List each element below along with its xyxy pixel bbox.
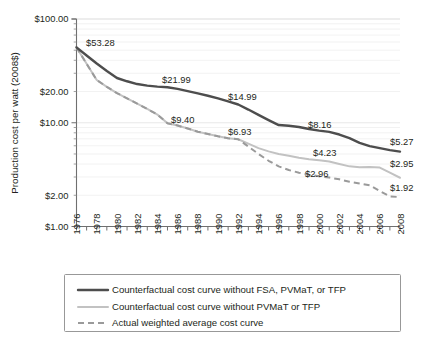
data-point-label: $21.99 — [162, 74, 191, 85]
data-point-label: $2.95 — [390, 158, 413, 169]
legend-label: Actual weighted average cost curve — [112, 317, 263, 328]
x-tick-label: 1980 — [112, 214, 123, 235]
data-point-label: $1.92 — [390, 182, 413, 193]
data-point-label: $4.23 — [313, 147, 336, 158]
series-line — [77, 47, 401, 177]
line-chart: $100.00$20.00$10.00$2.00$1.00 1976197819… — [0, 0, 426, 338]
x-tick-label: 1988 — [192, 214, 203, 235]
series-group — [77, 47, 401, 197]
y-tick-label: $10.00 — [40, 117, 69, 128]
x-tick-label: 1976 — [71, 214, 82, 235]
data-point-label: $14.99 — [228, 91, 257, 102]
x-tick-label: 1992 — [233, 214, 244, 235]
series-line — [77, 47, 401, 197]
data-point-label: $6.93 — [228, 126, 251, 137]
y-tick-label: $1.00 — [45, 221, 68, 232]
data-point-label: $53.28 — [86, 37, 115, 48]
x-tick-label: 2008 — [395, 214, 406, 235]
y-axis-title: Production cost per watt (2008$) — [9, 52, 20, 194]
x-tick-label: 2004 — [354, 214, 365, 235]
x-tick-label: 1998 — [294, 214, 305, 235]
x-tick-label: 2002 — [334, 214, 345, 235]
x-tick-label: 1982 — [132, 214, 143, 235]
x-tick-label-group: 1976197819801982198419861988199019921994… — [71, 214, 406, 235]
data-point-label: $5.27 — [390, 136, 413, 147]
x-tick-label: 1984 — [152, 214, 163, 235]
data-point-label: $9.40 — [171, 114, 194, 125]
x-tick-label: 2000 — [314, 214, 325, 235]
legend-label: Counterfactual cost curve without PVMaT … — [112, 301, 320, 312]
x-tick-label: 1990 — [213, 214, 224, 235]
y-tick-label-group: $100.00$20.00$10.00$2.00$1.00 — [35, 13, 69, 232]
x-tick-label: 1978 — [91, 214, 102, 235]
y-tick-label: $100.00 — [35, 13, 69, 24]
x-tick-label: 1994 — [253, 214, 264, 235]
x-tick-label: 1986 — [172, 214, 183, 235]
y-tick-group — [72, 19, 77, 227]
data-point-label: $8.16 — [308, 119, 331, 130]
legend-label: Counterfactual cost curve without FSA, P… — [112, 284, 346, 295]
x-tick-label: 1996 — [273, 214, 284, 235]
y-tick-label: $2.00 — [45, 190, 68, 201]
gridlines-group — [77, 19, 401, 227]
chart-container: $100.00$20.00$10.00$2.00$1.00 1976197819… — [0, 0, 426, 338]
y-tick-label: $20.00 — [40, 86, 69, 97]
data-point-label: $2.96 — [305, 168, 328, 179]
x-tick-label: 2006 — [374, 214, 385, 235]
